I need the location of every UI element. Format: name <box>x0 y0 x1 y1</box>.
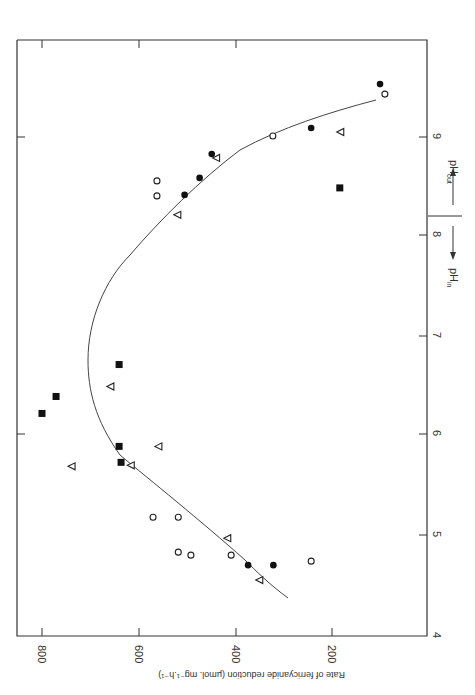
filled-circle-marker <box>245 562 252 569</box>
open-circle-marker <box>188 552 194 558</box>
open-circle-marker <box>175 514 181 520</box>
filled-circle-marker <box>270 562 277 569</box>
rate-tick-200: 200 <box>326 645 338 663</box>
ph-tick-8: 8 <box>431 231 443 237</box>
ph-axis: 4 5 6 7 8 9 pHout pHin <box>17 133 462 638</box>
ph-in-label: pHin <box>446 268 460 288</box>
ph-tick-4: 4 <box>431 632 443 638</box>
open-circle-marker <box>228 552 234 558</box>
fit-curve <box>88 100 376 598</box>
ph-rate-chart: 800 600 400 200 Rate of ferricyanide red… <box>0 0 475 695</box>
filled-circle-marker <box>208 151 215 158</box>
open-triangle-marker <box>127 462 134 469</box>
rate-axis: 800 600 400 200 Rate of ferricyanide red… <box>36 40 345 680</box>
filled-square-marker <box>336 184 343 191</box>
rate-tick-800: 800 <box>36 645 48 663</box>
filled-square-marker <box>116 361 123 368</box>
open-circle-marker <box>270 133 276 139</box>
open-triangle-marker <box>155 443 162 450</box>
ph-tick-6: 6 <box>431 430 443 436</box>
open-circle-marker <box>308 558 314 564</box>
open-triangle-marker <box>224 535 231 542</box>
filled-circle-marker <box>196 175 203 182</box>
open-circle-marker <box>382 91 388 97</box>
ph-in-arrow-icon <box>450 226 456 260</box>
filled-square-marker <box>118 459 125 466</box>
rate-axis-title: Rate of ferricyanide reduction (µmol. mg… <box>158 670 345 680</box>
ph-tick-7: 7 <box>431 332 443 338</box>
filled-square-marker <box>116 443 123 450</box>
filled-circle-marker <box>308 125 315 132</box>
plot-frame <box>17 40 427 636</box>
rate-tick-400: 400 <box>230 645 242 663</box>
ph-tick-5: 5 <box>431 531 443 537</box>
filled-square-marker <box>53 393 60 400</box>
open-circle-marker <box>175 549 181 555</box>
filled-circle-marker <box>377 81 384 88</box>
open-circle-marker <box>154 178 160 184</box>
open-circle-marker <box>154 193 160 199</box>
ph-tick-9: 9 <box>431 133 443 139</box>
open-triangle-marker <box>107 383 114 390</box>
filled-square-marker <box>39 410 46 417</box>
open-triangle-marker <box>337 129 344 136</box>
filled-circle-marker <box>181 192 188 199</box>
open-circle-marker <box>150 514 156 520</box>
rate-tick-600: 600 <box>133 645 145 663</box>
open-triangle-marker <box>256 577 263 584</box>
ph-out-label: pHout <box>446 160 460 184</box>
open-triangle-marker <box>174 211 181 218</box>
open-triangle-marker <box>68 463 75 470</box>
